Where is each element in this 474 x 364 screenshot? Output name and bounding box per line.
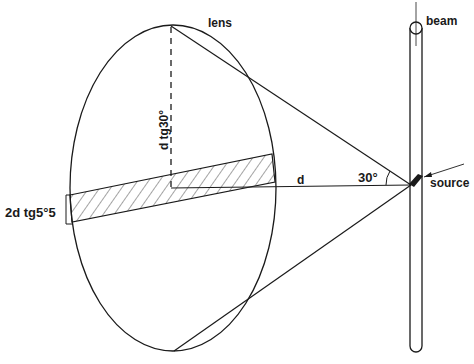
distance-label: d [297, 174, 304, 186]
half-height-label: d tg30° [158, 100, 170, 160]
band-width-label: 2d tg5°5 [5, 206, 56, 219]
beam-label: beam [426, 15, 457, 27]
source-marker [409, 174, 423, 187]
top-ray [171, 26, 411, 185]
optics-diagram [0, 0, 474, 364]
angle-label: 30° [358, 171, 378, 184]
lens-label: lens [208, 17, 232, 29]
beam-tube [410, 28, 422, 352]
source-label: source [430, 177, 469, 189]
angle-arc [386, 171, 390, 185]
bottom-ray [174, 185, 411, 351]
